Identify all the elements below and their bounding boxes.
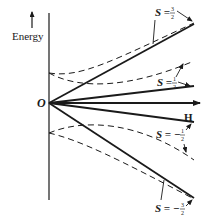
level-line-s-minus-3-2 [49,103,194,198]
pointer-arrow-icon [184,144,186,152]
pointer-arrow-icon [178,82,190,86]
dashed-curve-upper-outer [49,23,194,74]
label-s-3-2: S = 3 2 [153,6,192,44]
svg-text:3: 3 [171,6,174,12]
svg-text:2: 2 [171,14,174,20]
energy-level-diagram: Energy O H S = 3 2 S = 1 2 S = − 1 [0,0,206,220]
svg-text:S = −: S = − [156,128,181,140]
svg-text:1: 1 [181,128,184,134]
level-line-s-3-2 [49,24,194,103]
origin-label: O [37,96,46,110]
svg-text:3: 3 [181,202,184,208]
svg-text:2: 2 [181,136,184,142]
pointer-arrow-icon [186,124,191,130]
dashed-curve-lower-outer [49,133,194,199]
svg-text:S =: S = [155,6,170,18]
pointer-line [153,20,155,44]
pointer-arrow-icon [186,200,192,206]
pointer-arrow-icon [176,64,183,77]
svg-text:S = −: S = − [155,202,180,214]
svg-text:1: 1 [173,76,176,82]
svg-text:2: 2 [173,84,176,90]
energy-axis-label-group: Energy [12,12,44,42]
level-line-s-minus-1-2 [49,103,194,122]
svg-text:S =: S = [157,76,172,88]
pointer-arrow-icon [177,11,192,21]
label-s-minus-1-2: S = − 1 2 [156,124,191,152]
svg-text:2: 2 [181,210,184,216]
energy-axis-label: Energy [12,30,44,42]
label-s-1-2: S = 1 2 [157,64,190,90]
